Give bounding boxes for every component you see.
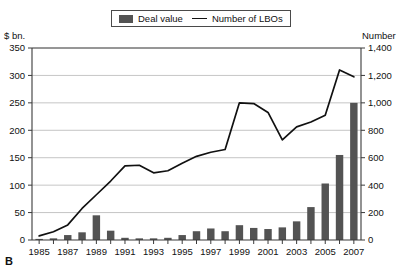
line-series-group <box>39 70 354 236</box>
x-axis-ticks: 1985198719891991199319951997199920012003… <box>29 240 365 257</box>
bar-2004 <box>307 207 314 240</box>
left-tick-350: 350 <box>9 42 25 53</box>
bar-2007 <box>350 103 357 240</box>
x-tick-1993: 1993 <box>143 246 164 257</box>
bar-2006 <box>336 155 343 240</box>
bar-2005 <box>322 183 329 240</box>
right-tick-400: 400 <box>368 180 384 191</box>
left-tick-0: 0 <box>20 234 25 245</box>
bar-2003 <box>293 221 300 240</box>
left-tick-100: 100 <box>9 180 25 191</box>
right-tick-1,200: 1,200 <box>368 70 392 81</box>
x-tick-1989: 1989 <box>86 246 107 257</box>
bar-1990 <box>107 231 114 240</box>
plot-area: 050100150200250300350 02004006008001,000… <box>0 0 406 274</box>
bar-2001 <box>264 229 271 240</box>
x-tick-1999: 1999 <box>229 246 250 257</box>
bar-1996 <box>193 231 200 240</box>
x-tick-2005: 2005 <box>315 246 336 257</box>
gridlines-group <box>32 48 361 213</box>
left-tick-50: 50 <box>14 207 25 218</box>
right-tick-1,400: 1,400 <box>368 42 392 53</box>
left-tick-300: 300 <box>9 70 25 81</box>
x-tick-1995: 1995 <box>172 246 193 257</box>
left-axis-ticks: 050100150200250300350 <box>9 42 32 245</box>
chart-canvas: 050100150200250300350 02004006008001,000… <box>0 0 406 274</box>
right-tick-1,000: 1,000 <box>368 97 392 108</box>
bar-1989 <box>93 215 100 240</box>
right-tick-800: 800 <box>368 125 384 136</box>
x-tick-1985: 1985 <box>29 246 50 257</box>
bar-1988 <box>78 232 85 240</box>
x-tick-2007: 2007 <box>343 246 364 257</box>
bar-1998 <box>221 231 228 240</box>
x-tick-1997: 1997 <box>200 246 221 257</box>
figure-panel-b: Deal value Number of LBOs $ bn. Number 0… <box>0 0 406 274</box>
bar-1995 <box>178 235 185 240</box>
right-tick-0: 0 <box>368 234 373 245</box>
bar-1999 <box>236 225 243 240</box>
right-tick-200: 200 <box>368 207 384 218</box>
x-tick-1987: 1987 <box>57 246 78 257</box>
panel-label-b: B <box>5 255 13 267</box>
left-tick-150: 150 <box>9 152 25 163</box>
right-tick-600: 600 <box>368 152 384 163</box>
bar-1987 <box>64 235 71 240</box>
bar-2000 <box>250 228 257 240</box>
x-tick-1991: 1991 <box>114 246 135 257</box>
bar-1997 <box>207 228 214 240</box>
right-axis-ticks: 02004006008001,0001,2001,400 <box>361 42 392 245</box>
left-tick-250: 250 <box>9 97 25 108</box>
bar-2002 <box>279 227 286 240</box>
left-tick-200: 200 <box>9 125 25 136</box>
x-tick-2003: 2003 <box>286 246 307 257</box>
x-tick-2001: 2001 <box>257 246 278 257</box>
